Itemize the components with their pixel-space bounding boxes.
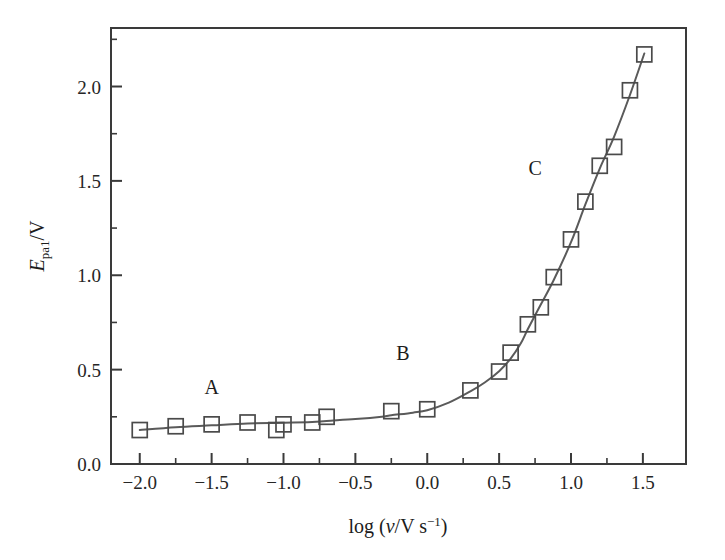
region-label-b: B bbox=[396, 342, 409, 364]
y-title-symbol: E bbox=[26, 259, 48, 272]
x-tick-label: 0.5 bbox=[487, 472, 511, 493]
x-title-symbol: ν bbox=[386, 515, 395, 537]
region-annotations: ABC bbox=[204, 157, 541, 398]
x-tick-label: 1.5 bbox=[631, 472, 655, 493]
x-tick-label: −1.5 bbox=[194, 472, 228, 493]
data-point-marker bbox=[546, 270, 561, 285]
x-title-mid: /V s bbox=[395, 515, 428, 537]
x-tick-label: −1.0 bbox=[266, 472, 300, 493]
x-axis-ticks bbox=[140, 453, 643, 464]
y-tick-label: 1.0 bbox=[77, 265, 101, 286]
x-tick-label: −2.0 bbox=[123, 472, 157, 493]
x-tick-label: 1.0 bbox=[559, 472, 583, 493]
y-axis-tick-labels: 0.00.51.01.52.0 bbox=[77, 77, 101, 475]
x-title-prefix: log ( bbox=[348, 515, 386, 538]
data-trend-curve bbox=[140, 53, 645, 430]
x-title-suffix: ) bbox=[441, 515, 448, 538]
chart-canvas: −2.0−1.5−1.0−0.50.00.51.01.5 0.00.51.01.… bbox=[0, 0, 725, 560]
y-tick-label: 0.5 bbox=[77, 360, 101, 381]
x-tick-label: −0.5 bbox=[338, 472, 372, 493]
y-axis-ticks bbox=[111, 39, 122, 464]
y-tick-label: 1.5 bbox=[77, 171, 101, 192]
x-axis-title: log (ν/V s−1) bbox=[348, 514, 447, 538]
region-label-c: C bbox=[528, 157, 541, 179]
plot-frame bbox=[111, 28, 686, 464]
figure-container: −2.0−1.5−1.0−0.50.00.51.01.5 0.00.51.01.… bbox=[0, 0, 725, 560]
y-title-subscript: pa1 bbox=[37, 241, 52, 260]
y-title-unit: /V bbox=[26, 220, 48, 241]
region-label-a: A bbox=[204, 376, 219, 398]
y-tick-label: 2.0 bbox=[77, 77, 101, 98]
y-tick-label: 0.0 bbox=[77, 454, 101, 475]
x-title-exponent: −1 bbox=[427, 514, 441, 529]
y-axis-title: Epa1/V bbox=[26, 220, 52, 273]
x-tick-label: 0.0 bbox=[415, 472, 439, 493]
x-axis-tick-labels: −2.0−1.5−1.0−0.50.00.51.01.5 bbox=[123, 472, 655, 493]
